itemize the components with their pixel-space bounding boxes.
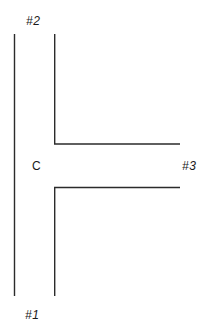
port-3-label: #3 xyxy=(182,160,196,172)
junction-diagram: #2 #1 #3 C xyxy=(0,0,215,333)
upper-inner-wall-line xyxy=(55,34,180,144)
center-point-label: C xyxy=(32,160,41,172)
lower-inner-wall-line xyxy=(55,188,180,297)
port-1-label: #1 xyxy=(25,309,39,321)
port-2-label: #2 xyxy=(26,15,40,27)
